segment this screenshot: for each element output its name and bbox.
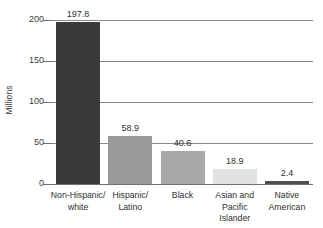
bar — [108, 136, 152, 184]
bar-value-label: 197.8 — [48, 10, 108, 19]
y-tick-mark-200 — [43, 20, 52, 21]
bar-chart: Millions 050100150200 197.858.940.618.92… — [0, 0, 323, 228]
y-tick-label-100: 100 — [4, 97, 44, 106]
y-tick-mark-100 — [43, 102, 52, 103]
category-label: Hispanic/ Latino — [101, 190, 159, 213]
y-tick-label-200: 200 — [4, 15, 44, 24]
category-label: Non-Hispanic/ white — [49, 190, 107, 213]
y-tick-label-0: 0 — [4, 179, 44, 188]
bar — [56, 22, 100, 184]
bar-value-label: 18.9 — [205, 157, 265, 166]
category-label: Black — [153, 190, 211, 202]
y-tick-mark-50 — [43, 143, 52, 144]
plot-area — [52, 20, 313, 184]
y-tick-mark-150 — [43, 61, 52, 62]
y-tick-label-150: 150 — [4, 56, 44, 65]
category-label: Native American — [258, 190, 316, 213]
bar-value-label: 40.6 — [153, 139, 213, 148]
bar-value-label: 2.4 — [257, 169, 317, 178]
bar — [161, 151, 205, 184]
y-tick-label-50: 50 — [4, 138, 44, 147]
bar — [213, 169, 257, 184]
bar — [265, 181, 309, 184]
y-tick-mark-0 — [43, 184, 52, 185]
category-label: Asian and Pacific Islander — [206, 190, 264, 225]
gridline-0 — [52, 184, 313, 185]
bar-value-label: 58.9 — [100, 124, 160, 133]
